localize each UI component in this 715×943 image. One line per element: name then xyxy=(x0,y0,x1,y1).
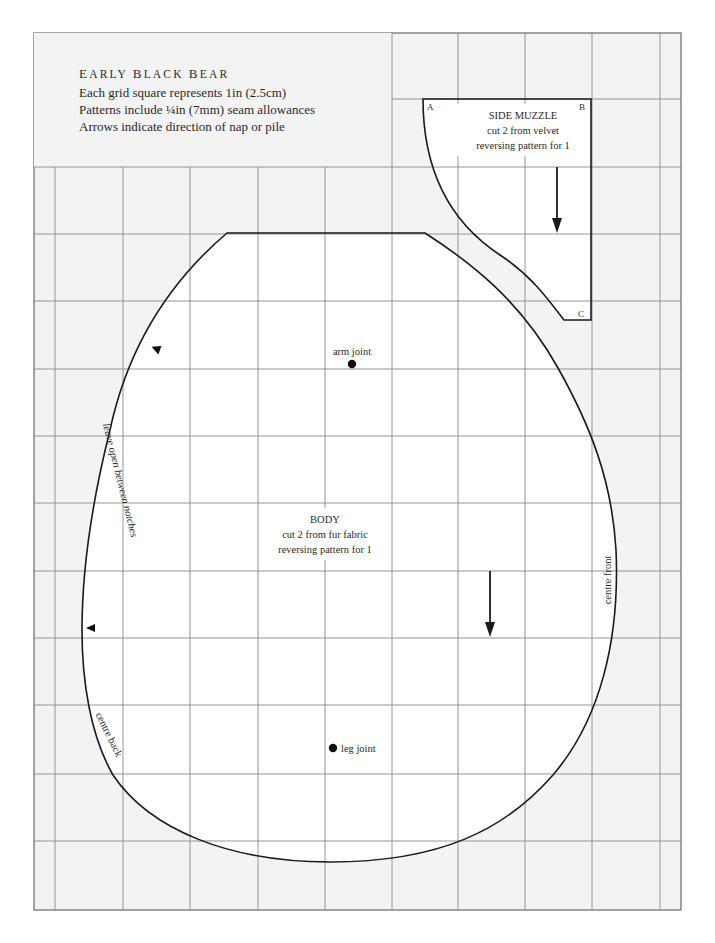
arm-joint-dot-icon xyxy=(348,360,356,368)
arm-joint-label: arm joint xyxy=(333,346,371,357)
pattern-sheet: EARLY BLACK BEAR Each grid square repres… xyxy=(0,0,715,943)
header-line-3: Arrows indicate direction of nap or pile xyxy=(79,119,285,134)
body-name: BODY xyxy=(310,514,340,525)
header-line-2: Patterns include ¼in (7mm) seam allowanc… xyxy=(79,102,315,117)
muzzle-corner-a: A xyxy=(427,102,434,112)
pattern-title: EARLY BLACK BEAR xyxy=(79,66,229,81)
leg-joint-dot-icon xyxy=(329,744,337,752)
muzzle-name: SIDE MUZZLE xyxy=(489,110,558,121)
header-line-1: Each grid square represents 1in (2.5cm) xyxy=(79,85,286,100)
muzzle-reversing: reversing pattern for 1 xyxy=(476,140,570,151)
header-panel xyxy=(34,33,392,167)
leg-joint-label: leg joint xyxy=(341,743,376,754)
body-instruction: cut 2 from fur fabric xyxy=(282,529,368,540)
centre-front-label: centre front xyxy=(602,556,613,605)
muzzle-corner-b: B xyxy=(579,102,585,112)
muzzle-instruction: cut 2 from velvet xyxy=(487,125,559,136)
body-reversing: reversing pattern for 1 xyxy=(278,544,372,555)
muzzle-corner-c: C xyxy=(578,309,584,319)
